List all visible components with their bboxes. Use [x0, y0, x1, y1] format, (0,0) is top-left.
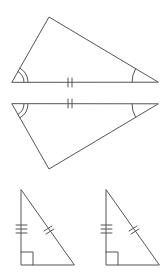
- right-angle-marker: [21, 252, 33, 265]
- hl-left-triangle: [16, 190, 74, 265]
- hypotenuse-tick-1: [44, 226, 52, 231]
- triangle-outline: [21, 190, 74, 265]
- right-angle-marker: [106, 252, 118, 265]
- asa-top-triangle: [12, 17, 158, 87]
- triangle-outline: [12, 17, 158, 82]
- triangle-outline: [106, 190, 159, 265]
- hypotenuse-tick-2: [46, 229, 54, 234]
- right-angle-arc: [132, 69, 136, 82]
- left-angle-arc-inner: [18, 104, 24, 114]
- congruent-triangles-diagram: [0, 0, 168, 277]
- hl-right-triangle: [101, 190, 159, 265]
- triangle-outline: [12, 104, 158, 169]
- hypotenuse-tick-2: [131, 229, 139, 234]
- right-angle-arc: [132, 104, 136, 117]
- asa-bottom-triangle: [12, 99, 158, 169]
- left-angle-arc-inner: [18, 72, 24, 82]
- hypotenuse-tick-1: [129, 226, 137, 231]
